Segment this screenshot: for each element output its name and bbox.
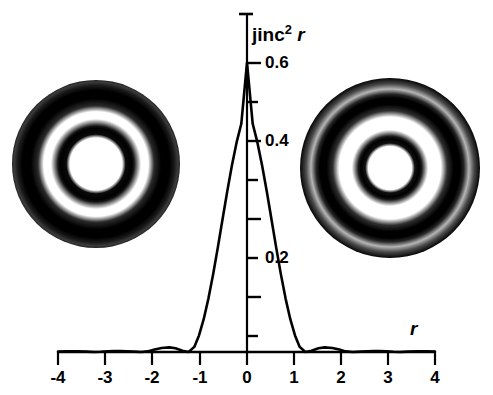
x-tick-label-4: 4 [420, 368, 450, 388]
y-tick-label-0.2: 0.2 [265, 248, 289, 268]
x-tick-label-3: 3 [373, 368, 403, 388]
y-axis-title-exponent: 2 [285, 22, 292, 37]
y-axis-title: jinc2 r [252, 22, 305, 46]
x-tick-label--3: -3 [90, 368, 120, 388]
x-tick-label-0: 0 [232, 368, 262, 388]
x-tick-label--1: -1 [185, 368, 215, 388]
y-tick-label-0.6: 0.6 [265, 53, 289, 73]
plot-area [0, 0, 493, 395]
x-tick-label-1: 1 [279, 368, 309, 388]
y-axis-title-variable: r [297, 24, 304, 45]
x-tick-label--2: -2 [137, 368, 167, 388]
figure-container: jinc2 r 0.6 0.4 0.2 r -4 -3 -2 -1 0 1 2 … [0, 0, 493, 395]
x-axis-ticks [58, 352, 435, 365]
y-tick-label-0.4: 0.4 [265, 131, 289, 151]
x-tick-label--4: -4 [43, 368, 73, 388]
x-axis-title: r [410, 318, 417, 340]
x-tick-label-2: 2 [326, 368, 356, 388]
y-axis-title-base: jinc [252, 24, 285, 45]
y-axis-ticks [247, 63, 261, 336]
